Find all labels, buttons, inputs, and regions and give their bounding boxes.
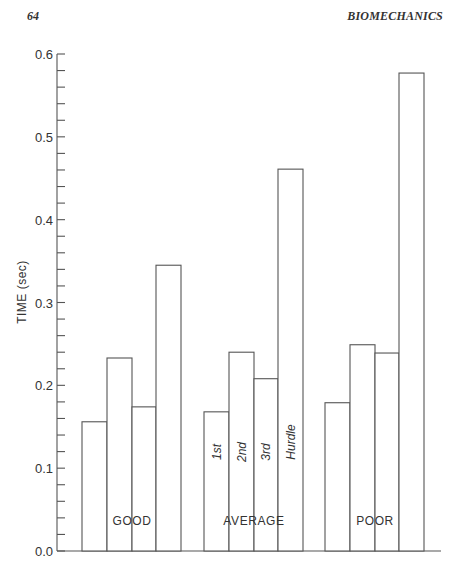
y-axis-title: TIME (sec): [15, 260, 29, 324]
bar-chart: 0.00.10.20.30.40.50.6 GOOD1st2nd3rdHurdl…: [0, 0, 455, 573]
group-label: GOOD: [112, 514, 151, 528]
group-label: AVERAGE: [223, 514, 284, 528]
y-tick-label: 0.3: [35, 296, 53, 311]
bar-label: 3rd: [259, 443, 273, 461]
bar-1st: [204, 412, 229, 551]
bar-label: 1st: [210, 443, 224, 460]
bar-hurdle: [399, 73, 424, 551]
bars: [82, 73, 424, 551]
y-tick-label: 0.4: [35, 213, 53, 228]
bar-hurdle: [278, 169, 303, 551]
group-label: POOR: [356, 514, 394, 528]
bar-group-good: [82, 265, 181, 551]
bar-hurdle: [156, 265, 181, 551]
bar-label: 2nd: [235, 442, 249, 463]
bar-1st: [325, 403, 350, 551]
bar-group-poor: [325, 73, 424, 551]
y-tick-label: 0.1: [35, 461, 53, 476]
bar-1st: [82, 422, 107, 551]
y-tick-label: 0.6: [35, 47, 53, 62]
y-tick-label: 0.2: [35, 378, 53, 393]
y-tick-label: 0.5: [35, 130, 53, 145]
y-tick-label: 0.0: [35, 544, 53, 559]
bar-group-average: [204, 169, 303, 551]
bar-3rd: [132, 407, 156, 551]
bar-label: Hurdle: [284, 424, 298, 460]
